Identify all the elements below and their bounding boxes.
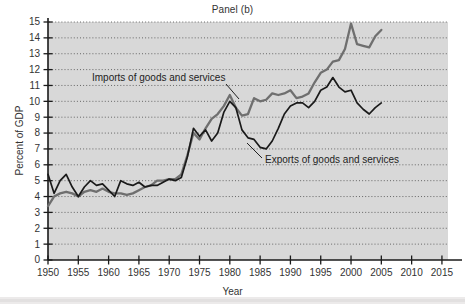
x-axis-title: Year <box>0 286 465 297</box>
y-tick-label-9: 9 <box>34 112 40 123</box>
y-tick-label-7: 7 <box>34 143 40 154</box>
x-tick-label-1970: 1970 <box>158 267 181 278</box>
chart-plot: 0123456789101112131415195019551960196519… <box>0 0 465 304</box>
y-tick-label-14: 14 <box>29 32 41 43</box>
y-tick-label-3: 3 <box>34 207 40 218</box>
x-tick-label-2015: 2015 <box>431 267 454 278</box>
x-tick-label-1985: 1985 <box>249 267 272 278</box>
x-tick-label-1950: 1950 <box>37 267 60 278</box>
x-tick-label-2000: 2000 <box>340 267 363 278</box>
x-tick-label-1995: 1995 <box>310 267 333 278</box>
y-tick-label-2: 2 <box>34 223 40 234</box>
y-tick-label-10: 10 <box>29 96 41 107</box>
annotation-imports-label: Imports of goods and services <box>92 72 225 83</box>
y-tick-label-13: 13 <box>29 48 41 59</box>
page-edge-band-inner <box>0 299 465 302</box>
x-tick-label-1975: 1975 <box>188 267 211 278</box>
figure-panel-b: Panel (b) 012345678910111213141519501955… <box>0 0 465 304</box>
plot-background <box>48 22 448 260</box>
y-tick-label-11: 11 <box>30 80 41 91</box>
x-tick-label-1960: 1960 <box>97 267 120 278</box>
x-tick-label-1955: 1955 <box>67 267 90 278</box>
y-tick-label-5: 5 <box>34 175 40 186</box>
x-tick-label-2005: 2005 <box>370 267 393 278</box>
annotation-exports-label: Exports of goods and services <box>265 154 399 165</box>
x-tick-label-1980: 1980 <box>219 267 242 278</box>
x-tick-label-1990: 1990 <box>279 267 302 278</box>
y-tick-label-0: 0 <box>34 254 40 265</box>
y-tick-label-15: 15 <box>29 16 41 27</box>
y-tick-label-6: 6 <box>34 159 40 170</box>
y-tick-label-12: 12 <box>29 64 41 75</box>
y-axis-title: Percent of GDP <box>14 81 25 201</box>
x-tick-label-1965: 1965 <box>128 267 151 278</box>
y-tick-label-1: 1 <box>34 239 40 250</box>
x-tick-label-2010: 2010 <box>401 267 424 278</box>
y-tick-label-8: 8 <box>34 127 40 138</box>
y-tick-label-4: 4 <box>34 191 40 202</box>
